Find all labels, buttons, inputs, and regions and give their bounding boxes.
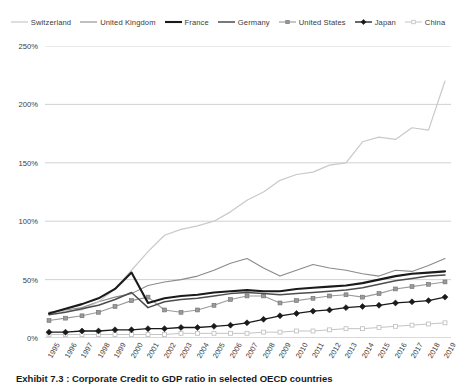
x-axis-tick-label: 2018 <box>425 341 441 360</box>
y-axis-tick-label: 100% <box>19 217 38 226</box>
data-point-marker <box>113 305 117 309</box>
data-point-marker <box>310 308 316 314</box>
data-point-marker <box>443 321 447 325</box>
y-axis-tick-label: 50% <box>23 275 38 284</box>
x-axis-tick-label: 1999 <box>112 341 128 360</box>
data-point-marker <box>163 333 167 337</box>
data-point-marker <box>163 308 167 312</box>
x-axis-tick-label: 2016 <box>392 341 408 360</box>
data-point-marker <box>376 302 382 308</box>
data-point-marker <box>196 308 200 312</box>
data-point-marker <box>311 329 315 333</box>
data-point-marker <box>328 328 332 332</box>
x-axis-tick-label: 2013 <box>343 341 359 360</box>
data-point-marker <box>146 333 150 337</box>
data-point-marker <box>195 324 201 330</box>
x-axis-tick-label: 2019 <box>442 341 456 360</box>
legend-swatch-icon <box>355 17 372 27</box>
x-axis-tick-label: 2008 <box>260 341 276 360</box>
legend-swatch-icon <box>80 17 97 27</box>
chart-caption: Exhibit 7.3 : Corporate Credit to GDP ra… <box>16 373 333 385</box>
data-point-marker <box>409 299 415 305</box>
data-point-marker <box>245 331 249 335</box>
series-japan <box>46 294 448 335</box>
data-point-marker <box>361 327 365 331</box>
data-point-marker <box>179 310 183 314</box>
y-axis-tick-label: 250% <box>19 42 38 51</box>
data-point-marker <box>196 331 200 335</box>
x-axis-tick-label: 2010 <box>293 341 309 360</box>
data-point-marker <box>360 303 366 309</box>
y-axis-tick-label: 0% <box>27 334 38 343</box>
data-point-marker <box>277 313 283 319</box>
y-axis: 0%50%100%150%200%250% <box>0 46 41 338</box>
data-point-marker <box>228 322 234 328</box>
data-point-marker <box>80 314 84 318</box>
x-axis-tick-label: 2012 <box>326 341 342 360</box>
x-axis-tick-label: 1995 <box>46 341 62 360</box>
data-point-marker <box>244 320 250 326</box>
legend-swatch-icon <box>165 17 182 27</box>
data-point-marker <box>129 327 135 333</box>
data-point-marker <box>262 294 266 298</box>
data-point-marker <box>97 310 101 314</box>
legend-item-switzerland[interactable]: Switzerland <box>11 17 71 27</box>
legend-item-label: Germany <box>238 18 270 27</box>
legend-item-label: China <box>425 18 445 27</box>
x-axis-tick-label: 2017 <box>409 341 425 360</box>
x-axis-tick-label: 2000 <box>128 341 144 360</box>
data-point-marker <box>212 303 216 307</box>
data-point-marker <box>393 300 399 306</box>
legend-item-china[interactable]: China <box>405 17 445 27</box>
legend-item-label: Japan <box>375 18 396 27</box>
data-point-marker <box>212 331 216 335</box>
data-point-marker <box>229 331 233 335</box>
legend-item-united-states[interactable]: United States <box>279 17 346 27</box>
x-axis-tick-label: 2003 <box>178 341 194 360</box>
legend-swatch-icon <box>11 17 28 27</box>
series-united-states <box>47 280 447 322</box>
legend-item-label: United Kingdom <box>100 18 155 27</box>
data-point-marker <box>343 305 349 311</box>
legend-item-label: Switzerland <box>31 18 71 27</box>
x-axis-tick-label: 2009 <box>277 341 293 360</box>
data-point-marker <box>427 282 431 286</box>
data-point-marker <box>377 326 381 330</box>
data-point-marker <box>377 292 381 296</box>
data-point-marker <box>344 293 348 297</box>
data-point-marker <box>295 329 299 333</box>
line-chart-svg <box>45 46 451 338</box>
legend-item-japan[interactable]: Japan <box>355 17 396 27</box>
data-point-marker <box>294 310 300 316</box>
data-point-marker <box>47 319 51 323</box>
data-point-marker <box>443 280 447 284</box>
data-point-marker <box>229 298 233 302</box>
data-point-marker <box>211 323 217 329</box>
x-axis-tick-label: 2002 <box>161 341 177 360</box>
data-point-marker <box>410 285 414 289</box>
x-axis-tick-label: 1997 <box>79 341 95 360</box>
y-axis-tick-label: 200% <box>19 100 38 109</box>
data-point-marker <box>262 330 266 334</box>
legend-swatch-icon <box>279 17 296 27</box>
legend-item-label: United States <box>299 18 346 27</box>
data-point-marker <box>442 294 448 300</box>
data-point-marker <box>145 326 151 332</box>
data-point-marker <box>327 307 333 313</box>
data-point-marker <box>311 296 315 300</box>
x-axis-tick-label: 2004 <box>194 341 210 360</box>
data-point-marker <box>245 294 249 298</box>
data-point-marker <box>295 299 299 303</box>
legend-item-france[interactable]: France <box>165 17 209 27</box>
x-axis-tick-label: 2007 <box>244 341 260 360</box>
legend-item-united-kingdom[interactable]: United Kingdom <box>80 17 155 27</box>
data-point-marker <box>361 295 365 299</box>
data-point-marker <box>278 301 282 305</box>
data-point-marker <box>178 324 184 330</box>
plot-area <box>45 46 451 338</box>
y-axis-tick-label: 150% <box>19 158 38 167</box>
data-point-marker <box>261 316 267 322</box>
legend-item-germany[interactable]: Germany <box>218 17 270 27</box>
x-axis-tick-label: 2001 <box>145 341 161 360</box>
data-point-marker <box>130 299 134 303</box>
